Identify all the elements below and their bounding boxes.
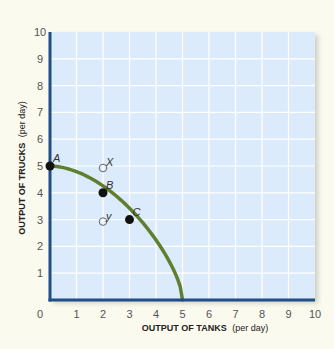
x-tick-label: 6 [206,308,212,320]
y-axis-title-main: OUTPUT OF TRUCKS [17,143,27,235]
point-a-label: A [52,152,60,164]
ppc-chart: 012345678910 12345678910 ABCXy OUTPUT OF… [0,0,334,349]
x-tick-label: 5 [179,308,185,320]
y-tick-label: 4 [37,187,43,199]
y-tick-label: 10 [34,26,46,38]
y-axis-title-unit: (per day) [17,101,27,137]
x-tick-label: 1 [73,308,79,320]
y-tick-labels: 12345678910 [34,26,46,279]
x-tick-label: 7 [232,308,238,320]
y-tick-label: 2 [37,240,43,252]
x-axis-title: OUTPUT OF TANKS (per day) [142,323,268,333]
x-axis-title-unit: (per day) [232,323,268,333]
x-axis-title-main: OUTPUT OF TANKS [142,323,227,333]
x-tick-label: 10 [309,308,321,320]
y-tick-label: 1 [37,267,43,279]
point-x-label: X [105,156,114,168]
x-tick-label: 0 [37,308,43,320]
y-tick-label: 5 [37,160,43,172]
y-tick-label: 6 [37,133,43,145]
point-c-label: C [133,206,141,218]
x-tick-label: 2 [100,308,106,320]
x-tick-label: 9 [285,308,291,320]
y-tick-label: 8 [37,80,43,92]
y-tick-label: 9 [37,53,43,65]
x-tick-label: 4 [153,308,159,320]
y-axis-title: OUTPUT OF TRUCKS (per day) [17,101,27,235]
x-tick-label: 3 [126,308,132,320]
x-tick-label: 8 [259,308,265,320]
y-tick-label: 7 [37,106,43,118]
point-b-label: B [106,179,113,191]
x-tick-labels: 012345678910 [37,308,321,320]
y-tick-label: 3 [37,214,43,226]
